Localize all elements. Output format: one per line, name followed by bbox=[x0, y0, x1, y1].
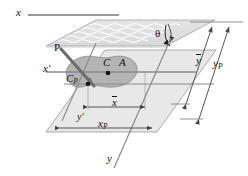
x-bar-overline: x bbox=[112, 97, 117, 108]
dimension-label-x-bar: x bbox=[112, 97, 117, 108]
y-bar-overline: y bbox=[196, 55, 201, 66]
free-surface-plane bbox=[46, 20, 215, 48]
axis-label-y: y bbox=[107, 153, 112, 164]
axis-label-y-prime: y' bbox=[77, 112, 84, 122]
figure-canvas: x x' y y' θ C A CP P x xP y yP bbox=[0, 0, 248, 176]
dimension-label-x-p: xP bbox=[98, 118, 107, 131]
angle-label-theta: θ bbox=[155, 28, 160, 39]
axis-label-x: x bbox=[16, 7, 21, 18]
dimension-label-y-p: yP bbox=[213, 58, 222, 71]
axis-label-x-prime: x' bbox=[43, 63, 50, 74]
yp-subscript: P bbox=[218, 62, 223, 71]
xp-subscript: P bbox=[103, 122, 108, 131]
centroid-label-c: C bbox=[103, 57, 110, 68]
area-label-a: A bbox=[119, 57, 126, 68]
diagram-svg bbox=[0, 0, 248, 176]
force-label-p: P bbox=[54, 42, 60, 53]
dimension-label-y-bar: y bbox=[196, 55, 201, 66]
cop-subscript: P bbox=[73, 77, 78, 86]
center-of-pressure-label: CP bbox=[66, 73, 78, 86]
centroid-point bbox=[106, 71, 111, 76]
